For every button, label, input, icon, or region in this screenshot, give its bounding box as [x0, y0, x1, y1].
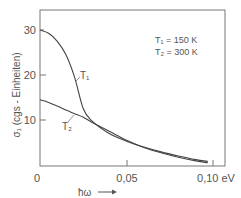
y-tick-20: 20	[24, 69, 36, 81]
y-tick-30: 30	[24, 24, 36, 36]
x-axis-arrow-icon	[98, 190, 117, 195]
curve-label-t2: T₂	[62, 121, 72, 132]
x-tick-0: 0	[34, 172, 40, 184]
x-tick-005: 0,05	[116, 172, 137, 184]
x-tick-010: 0,10 eV	[197, 172, 236, 184]
x-axis-ticks	[127, 160, 213, 166]
y-tick-10: 10	[24, 114, 36, 126]
curve-label-t1: T₁	[80, 70, 90, 81]
y-axis-ticks	[40, 30, 46, 120]
legend-t1: T₁ = 150 K	[155, 35, 197, 45]
legend-t2: T₂ = 300 K	[155, 47, 198, 57]
y-axis-label: σ₁ (cgs - Einheiten)	[11, 52, 22, 137]
chart-canvas: 10 20 30 0 0,05 0,10 eV σ₁ (cgs - Einhei…	[0, 0, 241, 198]
x-axis-label: ħω	[78, 187, 92, 198]
